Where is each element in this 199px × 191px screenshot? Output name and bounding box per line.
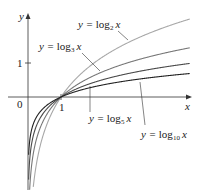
arrow-log2 [118,31,128,40]
arrow-log10 [140,82,145,125]
origin-label: 0 [17,98,23,110]
label-log10: y = log10x [140,128,187,142]
log-functions-chart: y x 0 1 1 y = log2x y = log3x y = log5x … [0,0,199,191]
label-log2: y = log2x [77,18,120,32]
arrow-log3 [82,53,100,71]
y-axis-label: y [18,10,24,22]
label-log3: y = log3x [38,40,81,54]
y-tick-label-1: 1 [17,57,23,69]
x-axis-arrow-icon [186,95,192,100]
y-axis-arrow-icon [26,13,31,19]
x-tick-label-1: 1 [59,101,65,113]
x-axis-label: x [184,100,190,112]
label-log5: y = log5x [88,112,131,126]
